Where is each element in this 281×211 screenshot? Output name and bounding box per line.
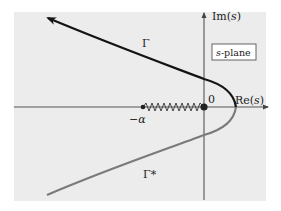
gamma-label: Γ: [142, 37, 150, 50]
origin-label: 0: [208, 93, 215, 106]
real-axis-label: Re(s): [235, 94, 264, 107]
minus-alpha-point: [141, 105, 146, 110]
gamma-conjugate-label: Γ*: [143, 168, 157, 181]
origin-point: [200, 103, 207, 110]
minus-alpha-label: −α: [129, 113, 146, 126]
imag-axis-label: Im(s): [212, 10, 241, 23]
s-plane-diagram: Im(s) Re(s) 0 −α Γ Γ* s-plane: [0, 0, 281, 211]
s-plane-label-box: s-plane: [212, 44, 256, 60]
svg-text:s-plane: s-plane: [216, 47, 251, 58]
plane-suffix: -plane: [221, 47, 251, 58]
